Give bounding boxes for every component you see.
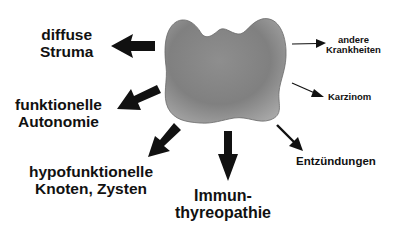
thyroid-shape bbox=[165, 19, 286, 124]
arrow-andere-shaft bbox=[292, 44, 318, 45]
thyroid-diseases-diagram: diffuse Struma funktionelle Autonomie hy… bbox=[0, 0, 399, 239]
label-line: Struma bbox=[40, 44, 93, 61]
label-line: Immun- bbox=[175, 187, 271, 204]
label-line: Knoten, Zysten bbox=[29, 181, 153, 198]
label-karzinom: Karzinom bbox=[328, 92, 371, 102]
label-line: Krankheiten bbox=[326, 45, 381, 55]
label-funktionelle-autonomie: funktionelle Autonomie bbox=[15, 97, 102, 130]
arrow-immunthyreopathie bbox=[218, 131, 238, 181]
label-immunthyreopathie: Immun- thyreopathie bbox=[175, 187, 271, 222]
arrow-diffuse-struma bbox=[111, 34, 155, 58]
arrow-karzinom-head bbox=[311, 89, 324, 97]
label-line: Karzinom bbox=[328, 92, 371, 102]
label-line: diffuse bbox=[40, 27, 93, 44]
arrow-funktionelle-autonomie bbox=[117, 85, 161, 110]
arrow-hypofunktionelle bbox=[148, 123, 181, 157]
label-entzuendungen: Entzündungen bbox=[296, 155, 376, 167]
label-diffuse-struma: diffuse Struma bbox=[40, 27, 93, 60]
label-line: funktionelle bbox=[15, 97, 102, 114]
arrow-entzuendungen-shaft bbox=[277, 125, 295, 143]
label-line: hypofunktionelle bbox=[29, 164, 153, 181]
label-andere-krankheiten: andere Krankheiten bbox=[326, 35, 381, 56]
label-line: Autonomie bbox=[15, 114, 102, 131]
arrow-andere-head bbox=[316, 39, 326, 48]
label-line: Entzündungen bbox=[296, 155, 376, 167]
label-hypofunktionelle-knoten: hypofunktionelle Knoten, Zysten bbox=[29, 164, 153, 197]
label-line: thyreopathie bbox=[175, 204, 271, 221]
